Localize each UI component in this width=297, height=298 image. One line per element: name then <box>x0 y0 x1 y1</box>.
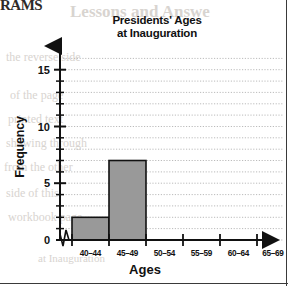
axis-break-zigzag <box>60 230 69 246</box>
y-tick-label-15: 15 <box>38 64 50 76</box>
histogram-figure: Presidents' Ages at Inauguration Frequen… <box>0 0 297 280</box>
x-tick-label-60-64: 60–64 <box>228 249 250 258</box>
x-tick-label-40-44: 40–44 <box>80 249 102 258</box>
x-tick-label-45-49: 45–49 <box>117 249 139 258</box>
page-horizontal-rule <box>0 283 288 284</box>
gridlines <box>60 58 283 240</box>
bar-40-44 <box>72 217 109 240</box>
x-tick-label-55-59: 55–59 <box>191 249 213 258</box>
bars-group <box>72 161 146 241</box>
y-tick-label-10: 10 <box>38 121 50 133</box>
x-tick-label-65-69: 65–69 <box>262 249 284 258</box>
x-tick-label-50-54: 50–54 <box>154 249 176 258</box>
plot-area: 0 5 10 15 40–44 45–49 50–54 55–59 60–64 … <box>0 0 297 280</box>
bar-45-49 <box>109 161 146 241</box>
y-tick-label-5: 5 <box>44 177 50 189</box>
y-tick-label-0: 0 <box>44 234 50 246</box>
page-vertical-rule <box>286 0 287 286</box>
